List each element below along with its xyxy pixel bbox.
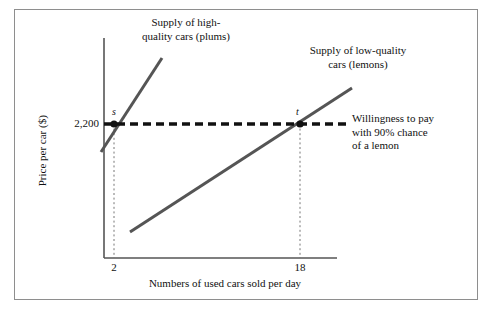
y-axis-title: Price per car ($) [36,91,50,211]
point-t-label: t [296,106,299,117]
point-t-marker [296,120,303,127]
supply-lemons-label: Supply of low-quality cars (lemons) [296,44,420,71]
supply-plums-label: Supply of high- quality cars (plums) [122,16,250,43]
point-s-label: s [112,106,116,117]
point-s-marker [110,120,117,127]
y-tick-label-2200: 2,200 [55,117,99,131]
supply-plums-line [101,58,162,152]
x-tick-label-18: 18 [285,261,315,275]
x-axis-title: Numbers of used cars sold per day [110,277,340,291]
supply-lemons-line [130,88,352,232]
chart-canvas [0,0,500,313]
used-car-market-figure: Supply of high- quality cars (plums) Sup… [0,0,500,313]
x-tick-label-2: 2 [99,261,129,275]
willingness-to-pay-label: Willingness to pay with 90% chance of a … [352,112,492,153]
